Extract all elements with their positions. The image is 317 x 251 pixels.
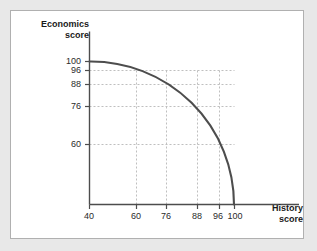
y-tick-label-76: 76 bbox=[55, 101, 81, 111]
x-tick-label-60: 60 bbox=[123, 211, 149, 221]
y-tick-label-88: 88 bbox=[55, 79, 81, 89]
ppf-curve bbox=[90, 61, 235, 204]
x-axis-title: History score bbox=[241, 203, 303, 225]
chart-panel: Economics score History score 100 96 88 … bbox=[10, 10, 304, 239]
y-axis-title: Economics score bbox=[23, 19, 89, 41]
y-tick-label-96: 96 bbox=[55, 65, 81, 75]
y-tick-label-60: 60 bbox=[55, 139, 81, 149]
x-tick-label-100: 100 bbox=[222, 211, 248, 221]
x-tick-label-40: 40 bbox=[76, 211, 102, 221]
grid-horizontal bbox=[90, 71, 235, 145]
x-tick-label-76: 76 bbox=[153, 211, 179, 221]
screenshot-root: Economics score History score 100 96 88 … bbox=[0, 0, 317, 251]
